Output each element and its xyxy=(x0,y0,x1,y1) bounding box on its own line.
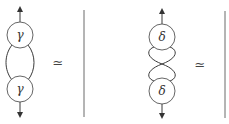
panel-gamma-loop: γ γ ≃ xyxy=(6,9,84,117)
delta-label-bottom: δ xyxy=(158,84,165,98)
delta-label-top: δ xyxy=(158,30,165,44)
twist-strand-b xyxy=(149,47,176,81)
string-diagram: γ γ ≃ δ δ ≃ xyxy=(0,0,229,124)
equivalence-symbol: ≃ xyxy=(195,57,206,72)
panel-delta-twist: δ δ ≃ xyxy=(149,11,225,118)
gamma-label-top: γ xyxy=(16,28,24,42)
gamma-label-bottom: γ xyxy=(16,82,24,96)
right-loop-strand xyxy=(28,45,34,80)
equivalence-symbol: ≃ xyxy=(53,55,64,70)
delta-node-top: δ xyxy=(149,24,175,50)
gamma-node-bottom: γ xyxy=(7,76,33,102)
left-loop-strand xyxy=(6,45,12,80)
delta-node-bottom: δ xyxy=(149,78,175,104)
gamma-node-top: γ xyxy=(7,22,33,48)
